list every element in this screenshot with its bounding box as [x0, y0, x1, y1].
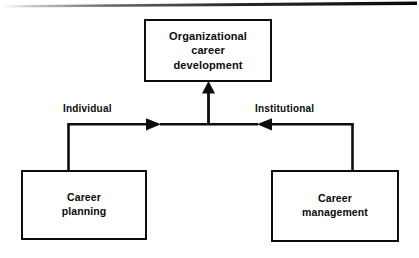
arrowhead-institutional-icon [257, 118, 272, 130]
node-organizational-career-development: Organizational career development [144, 19, 272, 82]
page-rule-icon [2, 2, 417, 8]
node-career-planning-label: Career planning [62, 191, 107, 218]
node-career-management-label: Career management [302, 192, 368, 219]
edge-label-institutional: Institutional [255, 103, 314, 114]
node-career-planning: Career planning [21, 170, 147, 240]
node-career-management: Career management [271, 170, 399, 242]
arrowhead-individual-icon [146, 118, 161, 130]
arrowhead-center-up-icon [202, 81, 215, 94]
node-organizational-career-development-label: Organizational career development [169, 29, 247, 72]
diagram-canvas: Organizational career development Career… [0, 0, 419, 258]
edge-label-individual: Individual [63, 103, 112, 114]
